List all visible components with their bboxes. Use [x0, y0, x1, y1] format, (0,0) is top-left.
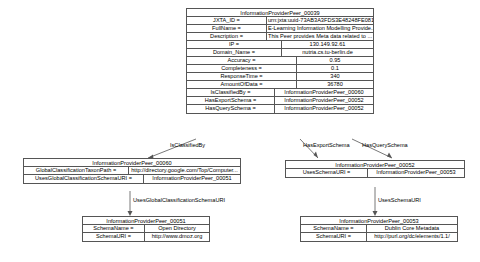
node-title: InformationProviderPeer_00060 [24, 159, 240, 167]
attribute-value: 0.95 [297, 57, 373, 64]
node-title: InformationProviderPeer_00053 [301, 217, 457, 225]
arrowhead-has-export-schema [314, 152, 319, 159]
table-row[interactable]: IsClassifiedBy = InformationProviderPeer… [187, 89, 373, 97]
attribute-key: SchemaURI = [301, 233, 367, 241]
node-title: InformationProviderPeer_00051 [83, 217, 209, 225]
table-row[interactable]: UsesGlobalClassificationSchemaURI = Info… [24, 175, 240, 183]
attribute-value: http://purl.org/dc/elements/1.1/ [367, 233, 457, 241]
table-row[interactable]: Description = This Peer provides Meta da… [187, 33, 373, 41]
edge-label-has-query-schema: HasQuerySchema [362, 142, 408, 149]
edge-label-uses-schema-uri: UsesSchemaURI [378, 197, 421, 204]
attribute-key: SchemaName = [301, 225, 367, 232]
table-row[interactable]: HasExportSchema = InformationProviderPee… [187, 97, 373, 105]
table-row[interactable]: ResponseTime = 340 [187, 73, 373, 81]
attribute-value: 340 [297, 73, 373, 80]
attribute-value: nutria.cs.tu-berlin.de [282, 49, 373, 56]
attribute-key: SchemaName = [83, 225, 145, 232]
table-row[interactable]: SchemaName = Dublin Core Metadata [301, 225, 457, 233]
attribute-value: InformationProviderPeer_00060 [275, 89, 373, 96]
table-row[interactable]: JXTA_ID = urn:jxta:uuid-73AB3A3FDS3E4824… [187, 17, 373, 25]
table-row[interactable]: FullName = E-Learning Information Modell… [187, 25, 373, 33]
table-row[interactable]: SchemaURI = http://purl.org/dc/elements/… [301, 233, 457, 241]
node-information-provider-peer-00060[interactable]: InformationProviderPeer_00060 GlobalClas… [23, 158, 241, 184]
attribute-key: JXTA_ID = [187, 17, 267, 24]
attribute-key: IP = [187, 41, 282, 48]
attribute-value: Open Directory [145, 225, 209, 232]
attribute-key: UsesGlobalClassificationSchemaURI = [24, 175, 144, 183]
table-row[interactable]: IP = 130.149.92.61 [187, 41, 373, 49]
attribute-value: urn:jxta:uuid-73AB3A3FDS3E48248FE08133CD… [267, 17, 373, 24]
node-information-provider-peer-00052[interactable]: InformationProviderPeer_00052 UsesSchema… [285, 160, 465, 178]
attribute-key: UsesSchemaURI = [286, 169, 368, 177]
arrowhead-has-query-schema [387, 153, 392, 159]
attribute-value: InformationProviderPeer_00053 [368, 169, 464, 177]
attribute-value: InformationProviderPeer_00052 [275, 105, 373, 113]
table-row[interactable]: Accuracy = 0.95 [187, 57, 373, 65]
attribute-key: Accuracy = [187, 57, 297, 64]
attribute-key: GlobalClassificationTaxonPath = [24, 167, 129, 174]
node-title: InformationProviderPeer_00052 [286, 161, 464, 169]
node-title: InformationProviderPeer_00039 [187, 9, 373, 17]
attribute-key: SchemaURI = [83, 233, 145, 241]
edge-label-uses-global-classification-schema-uri: UsesGlobalClassificationSchemaURI [133, 197, 225, 204]
edge-label-is-classified-by: IsClassifiedBy [170, 142, 205, 149]
attribute-value: http://directory.google.com/Top/Computer… [129, 167, 240, 174]
table-row[interactable]: AmountOfData = 36780 [187, 81, 373, 89]
attribute-key: HasExportSchema = [187, 97, 275, 104]
table-row[interactable]: SchemaURI = http://www.dmoz.org [83, 233, 209, 241]
table-row[interactable]: Completeness = 0.1 [187, 65, 373, 73]
attribute-value: Dublin Core Metadata [367, 225, 457, 232]
attribute-key: Domain_Name = [187, 49, 282, 56]
table-row[interactable]: HasQuerySchema = InformationProviderPeer… [187, 105, 373, 113]
attribute-key: Description = [187, 33, 267, 40]
table-row[interactable]: SchemaName = Open Directory [83, 225, 209, 233]
attribute-key: AmountOfData = [187, 81, 297, 88]
table-row[interactable]: GlobalClassificationTaxonPath = http://d… [24, 167, 240, 175]
attribute-key: ResponseTime = [187, 73, 297, 80]
table-row[interactable]: Domain_Name = nutria.cs.tu-berlin.de [187, 49, 373, 57]
attribute-value: 36780 [297, 81, 373, 88]
edge-label-has-export-schema: HasExportSchema [303, 142, 350, 149]
attribute-value: InformationProviderPeer_00052 [275, 97, 373, 104]
table-row[interactable]: UsesSchemaURI = InformationProviderPeer_… [286, 169, 464, 177]
object-diagram-canvas: InformationProviderPeer_00039 JXTA_ID = … [0, 0, 480, 262]
attribute-value: 0.1 [297, 65, 373, 72]
node-information-provider-peer-00039[interactable]: InformationProviderPeer_00039 JXTA_ID = … [186, 8, 374, 114]
attribute-value: E-Learning Information Modelling Provide… [267, 25, 373, 32]
attribute-key: Completeness = [187, 65, 297, 72]
attribute-key: HasQuerySchema = [187, 105, 275, 113]
node-information-provider-peer-00053[interactable]: InformationProviderPeer_00053 SchemaName… [300, 216, 458, 242]
node-information-provider-peer-00051[interactable]: InformationProviderPeer_00051 SchemaName… [82, 216, 210, 242]
attribute-value: http://www.dmoz.org [145, 233, 209, 241]
attribute-key: IsClassifiedBy = [187, 89, 275, 96]
attribute-value: 130.149.92.61 [282, 41, 373, 48]
attribute-key: FullName = [187, 25, 267, 32]
attribute-value: InformationProviderPeer_00051 [144, 175, 240, 183]
attribute-value: This Peer provides Meta data related to … [267, 33, 373, 40]
